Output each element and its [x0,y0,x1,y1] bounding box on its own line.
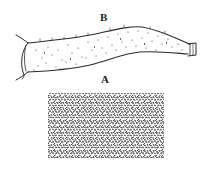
tube-stipple [33,30,182,70]
specimen-figure: B A [0,0,208,170]
tube-illustration [0,0,208,170]
texture-sample [48,93,164,158]
label-b: B [100,12,107,23]
label-a: A [101,74,109,85]
